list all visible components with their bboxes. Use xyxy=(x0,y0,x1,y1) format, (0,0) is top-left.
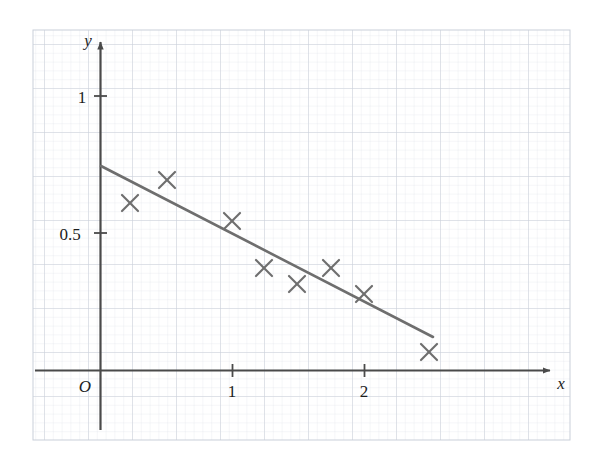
y-axis-label: y xyxy=(82,31,92,50)
x-tick-label-2: 2 xyxy=(360,382,369,401)
plot-canvas: 1 0.5 1 2 y x O xyxy=(0,0,593,466)
x-axis-label: x xyxy=(556,374,565,393)
scatter-plot-figure: 1 0.5 1 2 y x O xyxy=(0,0,593,466)
grid-background xyxy=(33,30,570,440)
x-tick-label-1: 1 xyxy=(228,382,237,401)
y-tick-label-1: 1 xyxy=(78,88,87,107)
origin-label: O xyxy=(79,377,91,396)
y-tick-label-0-5: 0.5 xyxy=(59,225,80,244)
